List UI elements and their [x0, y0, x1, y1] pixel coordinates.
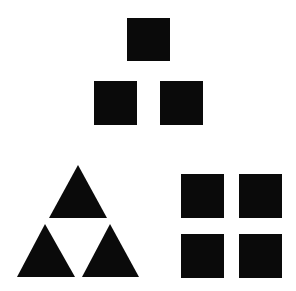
square-shape [239, 234, 282, 278]
triangle-shape [82, 224, 139, 277]
square-shape [181, 174, 224, 218]
triangle-shape [17, 224, 75, 277]
triangle-shape [49, 165, 107, 218]
square-shape [181, 234, 224, 278]
square-shape [239, 174, 282, 218]
